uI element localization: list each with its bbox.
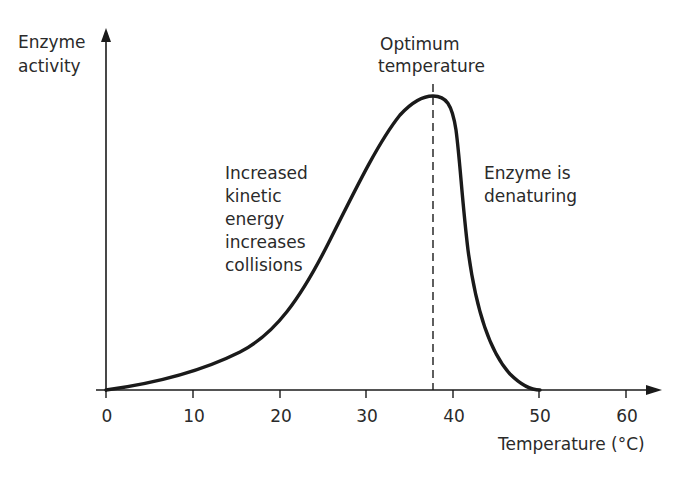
falling-annotation: Enzyme is denaturing — [484, 162, 577, 208]
y-axis-label-line2: activity — [18, 55, 81, 77]
rising-annotation: Increased kinetic energy increases colli… — [225, 162, 308, 277]
x-tick-label-40: 40 — [443, 406, 465, 426]
x-tick-label-20: 20 — [270, 406, 292, 426]
y-axis-arrow-icon — [101, 28, 111, 42]
optimum-label-line2: temperature — [378, 55, 485, 77]
y-axis-label-line1: Enzyme — [18, 31, 86, 53]
x-tick-label-30: 30 — [356, 406, 378, 426]
x-axis-ticks — [106, 390, 626, 398]
x-tick-label-10: 10 — [183, 406, 205, 426]
x-tick-label-0: 0 — [102, 406, 113, 426]
x-tick-label-50: 50 — [529, 406, 551, 426]
x-axis-arrow-icon — [646, 385, 662, 395]
enzyme-activity-curve — [106, 96, 540, 390]
x-tick-label-60: 60 — [616, 406, 638, 426]
optimum-label-line1: Optimum — [380, 33, 459, 55]
x-axis-label: Temperature (°C) — [498, 433, 645, 455]
